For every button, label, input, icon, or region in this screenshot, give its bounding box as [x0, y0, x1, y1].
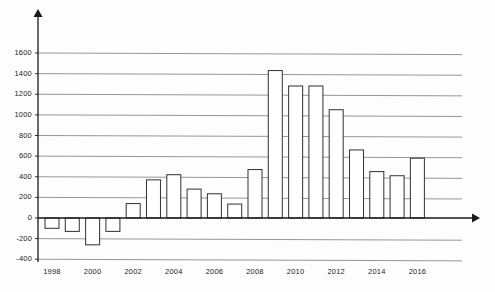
x-axis-tick-label: 2012 — [316, 267, 356, 276]
x-axis-tick-label: 2002 — [113, 267, 153, 276]
y-axis-tick-label: 200 — [0, 192, 32, 201]
gridline — [38, 115, 462, 117]
gridline — [38, 259, 462, 261]
x-axis-tick-label: 1998 — [32, 267, 72, 276]
bar — [45, 218, 59, 228]
y-axis-tick-label: 1000 — [0, 110, 32, 119]
y-axis-tick-label: -200 — [0, 234, 32, 243]
bar — [65, 218, 79, 231]
bar — [106, 218, 120, 231]
bar — [309, 86, 323, 218]
y-axis-tick-label: 400 — [0, 172, 32, 181]
bar — [147, 180, 161, 218]
plot-area: 16001400120010008006004002000-200-400 19… — [0, 0, 495, 292]
chart-canvas — [0, 0, 495, 292]
x-axis-tick-label: 2010 — [276, 267, 316, 276]
y-axis-tick-label: -400 — [0, 254, 32, 263]
bar — [289, 86, 303, 218]
x-axis-tick-label: 2000 — [73, 267, 113, 276]
bar — [390, 176, 404, 218]
bar — [86, 218, 100, 245]
x-axis-tick-label: 2016 — [397, 267, 437, 276]
bar — [329, 110, 343, 218]
x-axis-tick-label: 2004 — [154, 267, 194, 276]
bar — [228, 204, 242, 218]
bar — [350, 150, 364, 218]
bar — [167, 175, 181, 218]
y-axis-tick-label: 600 — [0, 151, 32, 160]
bar-chart: 16001400120010008006004002000-200-400 19… — [0, 0, 495, 292]
y-axis-tick-label: 1200 — [0, 89, 32, 98]
bar — [207, 194, 221, 218]
y-axis-tick-label: 1400 — [0, 69, 32, 78]
bar — [268, 71, 282, 218]
gridline — [38, 53, 462, 55]
x-axis-tick-label: 2006 — [194, 267, 234, 276]
y-axis-tick-label: 1600 — [0, 48, 32, 57]
y-axis-tick-label: 800 — [0, 131, 32, 140]
gridline — [38, 136, 462, 138]
x-axis-tick-label: 2014 — [357, 267, 397, 276]
y-axis-arrow-icon — [34, 9, 43, 17]
y-axis-tick-label: 0 — [0, 213, 32, 222]
x-axis-tick-label: 2008 — [235, 267, 275, 276]
gridline — [38, 74, 462, 76]
gridline — [38, 156, 462, 158]
x-axis-arrow-icon — [472, 214, 480, 223]
bar — [126, 204, 140, 218]
bar — [370, 172, 384, 218]
bar — [187, 189, 201, 218]
bar — [248, 170, 262, 218]
bar — [410, 158, 424, 218]
gridline — [38, 94, 462, 96]
gridline — [38, 239, 462, 241]
gridlines — [38, 53, 462, 261]
